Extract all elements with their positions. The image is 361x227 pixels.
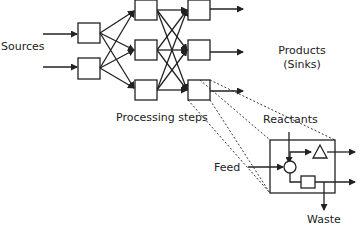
intermediate-unit-1 <box>135 0 157 20</box>
reactants-label: Reactants <box>263 113 318 126</box>
final-unit-3 <box>188 80 210 100</box>
intermediate-unit-3 <box>135 80 157 100</box>
intermediate-unit-2 <box>135 40 157 60</box>
sources-label: Sources <box>1 40 45 53</box>
source-unit-2 <box>78 58 100 79</box>
sinks-label: (Sinks) <box>272 58 332 71</box>
feed-label: Feed <box>214 161 240 174</box>
final-unit-2 <box>188 40 210 60</box>
waste-label: Waste <box>307 213 341 226</box>
processing-steps-label: Processing steps <box>116 111 208 124</box>
products-label: Products <box>272 44 332 57</box>
source-unit-1 <box>78 23 100 43</box>
mixer-circle <box>284 161 296 173</box>
final-unit-1 <box>188 0 210 20</box>
separator-square <box>301 176 315 188</box>
